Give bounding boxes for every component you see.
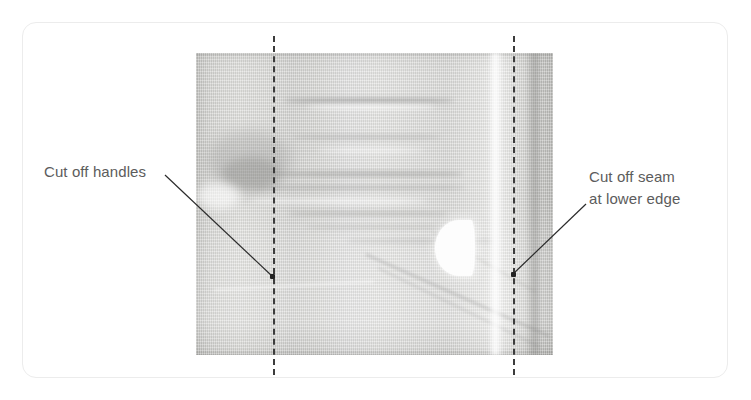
bag-wrinkle — [306, 225, 446, 229]
leader-endpoint-handles — [270, 274, 275, 279]
bag-wrinkle — [316, 149, 426, 152]
bag-highlight-blotch — [196, 183, 240, 209]
left-cut-line — [273, 36, 275, 375]
right-cut-line — [513, 36, 515, 375]
figure-canvas: Cut off handles Cut off seam at lower ed… — [0, 0, 751, 400]
leader-endpoint-seam — [511, 272, 516, 277]
bag-wrinkle — [274, 171, 464, 177]
callout-label-seam: Cut off seam at lower edge — [589, 166, 680, 210]
callout-label-handles: Cut off handles — [44, 161, 146, 183]
bag-wrinkle — [292, 135, 442, 139]
handle-cutout — [435, 220, 475, 276]
bag-wrinkle — [248, 199, 428, 203]
bag-side-seam — [526, 53, 540, 355]
bag-wrinkle — [288, 211, 448, 216]
bag-wrinkle — [306, 105, 436, 109]
bag-wrinkle — [256, 185, 466, 190]
bag-fold-highlight — [488, 53, 504, 355]
bag-wrinkle — [284, 98, 454, 103]
bag-photo — [196, 53, 553, 355]
